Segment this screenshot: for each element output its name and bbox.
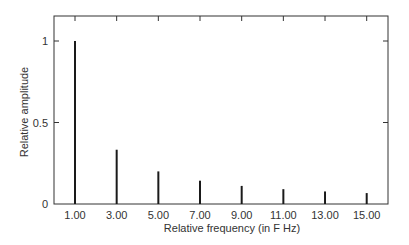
- y-tick-labels: 00.51: [33, 35, 48, 210]
- x-axis-label: Relative frequency (in F Hz): [164, 222, 300, 234]
- x-tick-labels: 1.003.005.007.009.0011.0013.0015.00: [64, 209, 380, 221]
- x-tick-label: 7.00: [189, 209, 210, 221]
- x-tick-label: 11.00: [270, 209, 297, 221]
- y-axis-label: Relative amplitude: [18, 67, 30, 158]
- spectral-lines: [75, 41, 367, 204]
- top-axis-ticks: [75, 16, 367, 21]
- spectrum-chart: 1.003.005.007.009.0011.0013.0015.00 00.5…: [0, 0, 409, 245]
- x-tick-label: 13.00: [311, 209, 339, 221]
- x-tick-label: 9.00: [231, 209, 252, 221]
- x-tick-label: 3.00: [106, 209, 127, 221]
- x-tick-label: 15.00: [353, 209, 381, 221]
- y-tick-label: 0.5: [33, 117, 48, 129]
- y-tick-label: 1: [42, 35, 48, 47]
- x-tick-label: 1.00: [64, 209, 85, 221]
- y-axis-ticks: [54, 41, 388, 123]
- x-tick-label: 5.00: [148, 209, 169, 221]
- plot-frame: [54, 16, 388, 204]
- y-tick-label: 0: [42, 198, 48, 210]
